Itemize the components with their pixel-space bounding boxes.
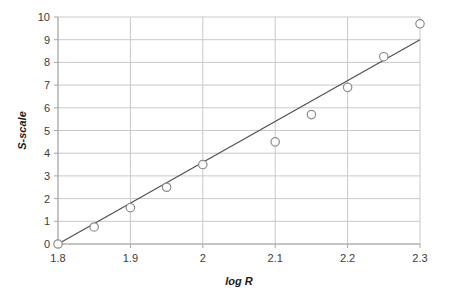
- y-tick-label: 0: [44, 238, 50, 250]
- x-tick-label: 2.2: [340, 252, 355, 264]
- data-point-marker: [126, 203, 134, 211]
- data-point-marker: [90, 223, 98, 231]
- x-axis-title: log R: [225, 275, 253, 287]
- y-tick-label: 10: [38, 11, 50, 23]
- x-tick-label: 1.9: [123, 252, 138, 264]
- scatter-plot: 0123456789101.81.922.12.22.3log RS-scale: [0, 0, 451, 301]
- y-tick-label: 1: [44, 215, 50, 227]
- x-tick-label: 1.8: [50, 252, 65, 264]
- y-tick-label: 4: [44, 147, 50, 159]
- y-tick-label: 5: [44, 125, 50, 137]
- data-point-marker: [307, 110, 315, 118]
- y-axis-title: S-scale: [16, 111, 28, 150]
- y-tick-label: 2: [44, 193, 50, 205]
- data-point-marker: [416, 20, 424, 28]
- data-point-marker: [271, 138, 279, 146]
- x-tick-label: 2.3: [412, 252, 427, 264]
- data-point-marker: [162, 183, 170, 191]
- x-tick-label: 2.1: [268, 252, 283, 264]
- chart-container: 0123456789101.81.922.12.22.3log RS-scale: [0, 0, 451, 301]
- y-tick-label: 8: [44, 56, 50, 68]
- y-tick-label: 6: [44, 102, 50, 114]
- x-tick-label: 2: [200, 252, 206, 264]
- data-point-marker: [380, 53, 388, 61]
- y-tick-label: 3: [44, 170, 50, 182]
- data-point-marker: [199, 160, 207, 168]
- data-point-marker: [343, 83, 351, 91]
- data-point-marker: [54, 240, 62, 248]
- y-tick-label: 7: [44, 79, 50, 91]
- y-tick-label: 9: [44, 34, 50, 46]
- trendline: [58, 40, 420, 244]
